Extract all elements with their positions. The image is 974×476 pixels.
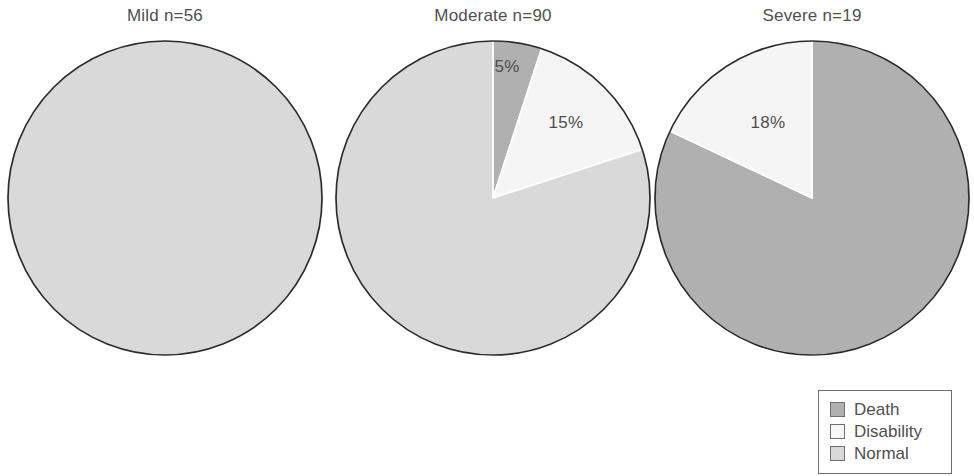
pie-title-mild: Mild n=56: [0, 6, 330, 26]
pie-svg-severe: 18%: [647, 38, 974, 370]
legend-swatch-death: [830, 402, 845, 417]
pie-panel-mild: Mild n=56: [0, 0, 330, 370]
pie-title-severe: Severe n=19: [647, 6, 974, 26]
chart-legend: Death Disability Normal: [818, 390, 952, 474]
legend-item-death: Death: [830, 398, 939, 420]
pie-panel-severe: Severe n=19 18%: [647, 0, 974, 370]
slice-label-disability: 18%: [751, 113, 786, 132]
pie-slice-normal: [8, 41, 322, 355]
legend-swatch-normal: [830, 446, 845, 461]
pie-svg-mild: [0, 38, 330, 370]
legend-item-disability: Disability: [830, 420, 939, 442]
legend-item-normal: Normal: [830, 442, 939, 464]
legend-label-normal: Normal: [854, 445, 909, 462]
legend-label-death: Death: [854, 401, 899, 418]
legend-swatch-disability: [830, 424, 845, 439]
slice-label-disability: 15%: [549, 113, 584, 132]
pie-panel-moderate: Moderate n=90 5%15%: [328, 0, 658, 370]
pie-title-moderate: Moderate n=90: [328, 6, 658, 26]
legend-label-disability: Disability: [854, 423, 922, 440]
pie-svg-moderate: 5%15%: [328, 38, 658, 370]
slice-label-death: 5%: [494, 57, 519, 76]
